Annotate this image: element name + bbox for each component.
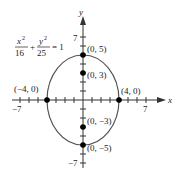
x-axis-label: x bbox=[167, 95, 172, 105]
point-label-4-0: (4, 0) bbox=[121, 86, 141, 96]
point-label-neg4-0: (−4, 0) bbox=[14, 84, 39, 94]
x-axis bbox=[12, 97, 166, 103]
x-max-label: 7 bbox=[143, 104, 148, 114]
svg-text:2: 2 bbox=[44, 35, 47, 41]
svg-text:+: + bbox=[30, 42, 35, 52]
svg-text:16: 16 bbox=[15, 48, 25, 58]
point-label-0-neg5: (0, −5) bbox=[87, 143, 112, 153]
svg-text:2: 2 bbox=[22, 35, 25, 41]
svg-text:x: x bbox=[16, 36, 21, 46]
y-min-label: −7 bbox=[68, 158, 78, 168]
ellipse-diagram: y x 7 −7 −7 7 (0, 5) (0, 3) (−4, 0) (4, … bbox=[0, 0, 179, 176]
point-label-0-neg3: (0, −3) bbox=[87, 116, 112, 126]
equation: x 2 16 + y 2 25 = 1 bbox=[15, 35, 64, 58]
y-max-label: 7 bbox=[73, 33, 78, 43]
svg-text:25: 25 bbox=[37, 48, 47, 58]
y-axis-label: y bbox=[78, 7, 83, 17]
point-label-0-5: (0, 5) bbox=[87, 44, 107, 54]
point-label-0-3: (0, 3) bbox=[87, 70, 107, 80]
svg-text:y: y bbox=[38, 36, 43, 46]
svg-text:= 1: = 1 bbox=[52, 42, 64, 52]
x-min-label: −7 bbox=[12, 104, 22, 114]
